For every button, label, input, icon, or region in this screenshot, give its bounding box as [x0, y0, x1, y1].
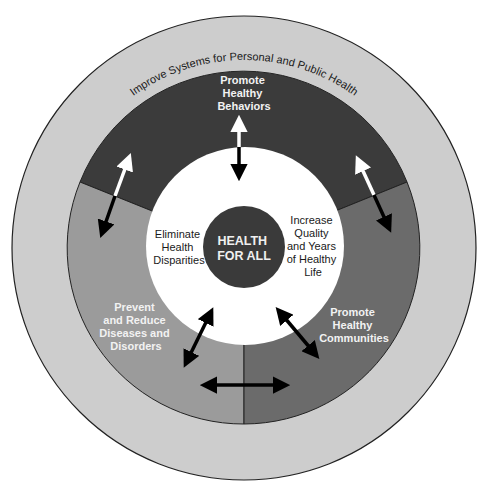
center-label: HEALTH FOR ALL	[217, 234, 271, 263]
sector-label-behaviors: Promote Healthy Behaviors	[217, 74, 270, 112]
health-for-all-diagram: Improve Systems for Personal and Public …	[0, 0, 488, 487]
